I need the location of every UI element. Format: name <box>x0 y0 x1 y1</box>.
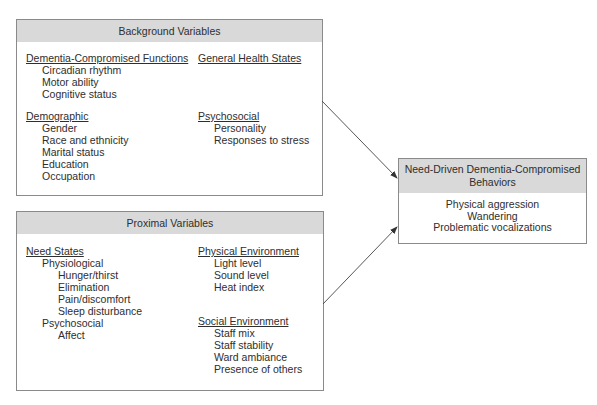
arrow-background-to-outcome <box>322 101 397 178</box>
connector-arrows <box>0 0 597 405</box>
arrow-proximal-to-outcome <box>323 227 397 304</box>
